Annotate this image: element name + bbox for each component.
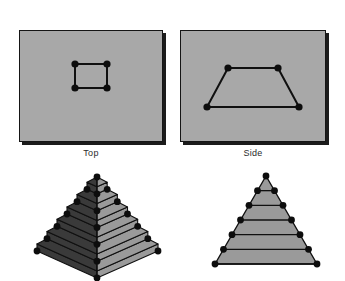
top-view-control-polygon <box>19 30 167 146</box>
pyramid-2d-control-point <box>254 187 261 194</box>
pyramid-control-point <box>155 248 162 255</box>
control-point <box>274 64 281 71</box>
pyramid-2d-control-point <box>280 202 287 209</box>
pyramid-control-point <box>84 186 91 193</box>
pyramid-2d-control-point <box>314 261 321 268</box>
pyramid-control-point <box>104 186 111 193</box>
pyramid-2d-control-point <box>229 231 236 238</box>
pyramid-control-point <box>134 223 141 230</box>
pyramid-2d-control-point <box>288 217 295 224</box>
pyramid-control-point <box>74 198 81 205</box>
pyramid-2d-control-point <box>212 261 219 268</box>
top-view-panel <box>19 30 163 142</box>
pyramid-control-point <box>124 211 131 218</box>
pyramid-control-point <box>94 174 101 181</box>
control-point <box>103 84 110 91</box>
control-point <box>203 103 210 110</box>
figure-root: Top Side <box>0 0 345 281</box>
pyramid-control-point <box>144 235 151 242</box>
control-point <box>71 60 78 67</box>
pyramid-control-point <box>94 241 101 248</box>
pyramid-control-point <box>94 207 101 214</box>
control-edge <box>207 68 228 107</box>
control-point <box>295 103 302 110</box>
pyramid-control-point <box>64 211 71 218</box>
top-view-label: Top <box>19 148 163 158</box>
pyramid-control-point <box>54 223 61 230</box>
pyramid-control-point <box>34 248 41 255</box>
pyramid-2d-control-point <box>297 231 304 238</box>
pyramid-2d-control-point <box>305 246 312 253</box>
pyramid-control-point <box>44 235 51 242</box>
side-view-control-polygon <box>180 30 330 146</box>
pyramid-2d-control-point <box>263 173 270 180</box>
pyramid-control-point <box>94 224 101 231</box>
pyramid-control-point <box>94 190 101 197</box>
pyramid-2d-control-point <box>271 187 278 194</box>
side-view-panel <box>180 30 326 142</box>
control-point <box>103 60 110 67</box>
pyramid-2d-control-point <box>220 246 227 253</box>
stepped-pyramid-3d <box>25 166 170 281</box>
side-view-label: Side <box>180 148 326 158</box>
pyramid-control-point <box>114 198 121 205</box>
pyramid-control-point <box>94 258 101 265</box>
control-edge <box>278 68 299 107</box>
pyramid-2d-control-point <box>246 202 253 209</box>
control-point <box>71 84 78 91</box>
control-point <box>224 64 231 71</box>
stepped-pyramid-2d <box>200 166 330 271</box>
pyramid-2d-control-point <box>237 217 244 224</box>
